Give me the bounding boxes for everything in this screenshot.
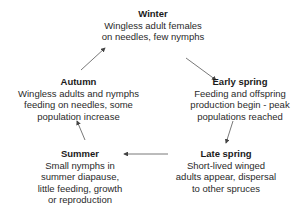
arrow-summer-to-autumn	[77, 121, 85, 140]
node-title: Early spring	[180, 76, 300, 88]
node-text: production begin - peak	[180, 99, 300, 111]
arrow-early-spring-to-late-spring	[226, 121, 233, 143]
node-text: on needles, few nymphs	[88, 31, 218, 43]
node-title: Autumn	[6, 76, 151, 88]
node-text: population increase	[6, 111, 151, 123]
node-text: summer diapause,	[30, 171, 130, 183]
node-text: populations reached	[180, 111, 300, 123]
arrow-autumn-to-winter	[81, 48, 105, 70]
node-text: little feeding, growth	[30, 183, 130, 195]
node-early-spring: Early spring Feeding and offspring produ…	[180, 76, 300, 122]
node-autumn: Autumn Wingless adults and nymphs feedin…	[6, 76, 151, 122]
node-text: adults appear, dispersal	[166, 171, 286, 183]
node-text: Short-lived winged	[166, 160, 286, 172]
node-text: or reproduction	[30, 194, 130, 206]
node-text: Feeding and offspring	[180, 88, 300, 100]
node-summer: Summer Small nymphs in summer diapause, …	[30, 148, 130, 206]
node-title: Late spring	[166, 148, 286, 160]
node-winter: Winter Wingless adult females on needles…	[88, 8, 218, 43]
node-text: feeding on needles, some	[6, 99, 151, 111]
node-text: to other spruces	[166, 183, 286, 195]
node-text: Wingless adults and nymphs	[6, 88, 151, 100]
node-title: Winter	[88, 8, 218, 20]
node-late-spring: Late spring Short-lived winged adults ap…	[166, 148, 286, 194]
node-text: Wingless adult females	[88, 20, 218, 32]
node-title: Summer	[30, 148, 130, 160]
node-text: Small nymphs in	[30, 160, 130, 172]
